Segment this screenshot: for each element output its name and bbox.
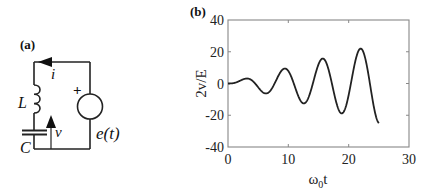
inductor-label: L [17,94,27,111]
panel-a-circuit: (a) i L C v + e(t) [17,37,120,156]
x-tick-20: 20 [342,152,356,167]
figure: (a) i L C v + e(t) (b) [0,0,430,192]
y-tick-neg20: -20 [205,108,224,123]
panel-a-label: (a) [20,37,35,52]
x-tick-30: 30 [402,152,416,167]
data-curve [228,49,379,123]
y-tick-0: 0 [217,77,224,92]
x-axis-label: ω0t [308,171,328,190]
voltage-label: v [55,124,62,140]
y-tick-20: 20 [210,45,224,60]
y-tick-40: 40 [210,13,224,28]
current-arrow-icon [38,57,52,67]
x-tick-labels: 0 10 20 30 [225,152,417,167]
x-tick-0: 0 [225,152,232,167]
source-polarity-plus: + [73,82,82,98]
inductor-icon [34,85,40,113]
capacitor-label: C [20,139,31,156]
panel-b-plot: (b) 40 20 0 -20 -40 0 10 20 30 2v/E ω0 [190,4,416,190]
y-axis-label: 2v/E [193,69,209,97]
y-tick-neg40: -40 [205,140,224,155]
panel-b-label: (b) [190,4,206,19]
source-label: e(t) [96,124,120,143]
x-tick-10: 10 [281,152,295,167]
current-label: i [51,66,55,82]
